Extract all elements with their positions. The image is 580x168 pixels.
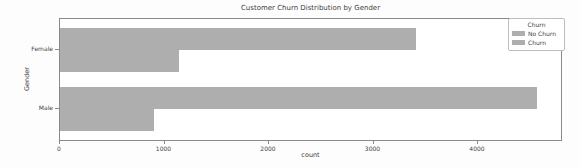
x-tick-label: 1000 <box>156 145 171 152</box>
y-tick-label-male: Male <box>39 104 53 112</box>
x-tick-label: 3000 <box>365 145 380 152</box>
bar-male-no-churn <box>60 87 537 109</box>
chart-title: Customer Churn Distribution by Gender <box>59 4 562 13</box>
x-tick-mark <box>164 141 165 144</box>
y-tick-label-female: Female <box>31 45 53 53</box>
legend-label-no-churn: No Churn <box>528 30 556 38</box>
bar-female-churn <box>60 50 179 72</box>
x-tick-label: 4000 <box>469 145 484 152</box>
x-tick-label: 0 <box>57 145 61 152</box>
bar-female-no-churn <box>60 28 416 50</box>
x-tick-mark <box>268 141 269 144</box>
legend-swatch-no-churn <box>512 31 525 36</box>
x-tick-mark <box>477 141 478 144</box>
plot-area <box>59 18 562 141</box>
bar-male-churn <box>60 109 154 131</box>
x-tick-mark <box>59 141 60 144</box>
x-tick-mark <box>373 141 374 144</box>
legend-item-churn: Churn <box>512 38 561 47</box>
y-tick-mark <box>55 49 59 50</box>
x-axis-label: count <box>59 151 562 159</box>
legend-swatch-churn <box>512 40 525 45</box>
legend: Churn No Churn Churn <box>508 18 565 51</box>
legend-title: Churn <box>512 21 561 29</box>
y-axis-label: Gender <box>23 67 31 91</box>
x-tick-label: 2000 <box>260 145 275 152</box>
legend-label-churn: Churn <box>528 39 546 47</box>
y-tick-mark <box>55 108 59 109</box>
legend-item-no-churn: No Churn <box>512 29 561 38</box>
chart-figure: Customer Churn Distribution by Gender co… <box>0 0 580 168</box>
